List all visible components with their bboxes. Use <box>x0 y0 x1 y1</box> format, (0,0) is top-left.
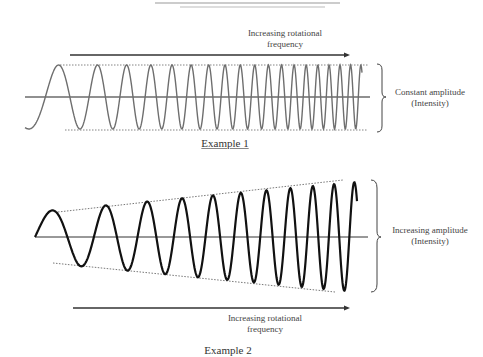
example2-side-label: Increasing amplitude (Intensity) <box>382 225 478 247</box>
example2-caption: Example 2 <box>193 344 263 357</box>
example1-arrow-label: Increasing rotational frequency <box>230 28 340 50</box>
example1-caption: Example 1 <box>190 137 260 150</box>
example1-side-label: Constant amplitude (Intensity) <box>385 87 475 109</box>
example2-arrow-label: Increasing rotational frequency <box>210 313 320 335</box>
example1-side-label-line2: (Intensity) <box>385 98 475 109</box>
diagram-canvas <box>0 0 483 357</box>
example2-brace <box>371 180 381 292</box>
example1-arrow-label-line2: frequency <box>230 39 340 50</box>
example1-arrow-label-line1: Increasing rotational <box>230 28 340 39</box>
example2-arrow-label-line1: Increasing rotational <box>210 313 320 324</box>
example2-side-label-line1: Increasing amplitude <box>382 225 478 236</box>
top-rule <box>155 3 340 7</box>
example2-side-label-line2: (Intensity) <box>382 236 478 247</box>
example2-frequency-arrow <box>73 306 350 311</box>
example1-side-label-line1: Constant amplitude <box>385 87 475 98</box>
example1-frequency-arrow <box>70 53 350 58</box>
example2-arrow-label-line2: frequency <box>210 324 320 335</box>
